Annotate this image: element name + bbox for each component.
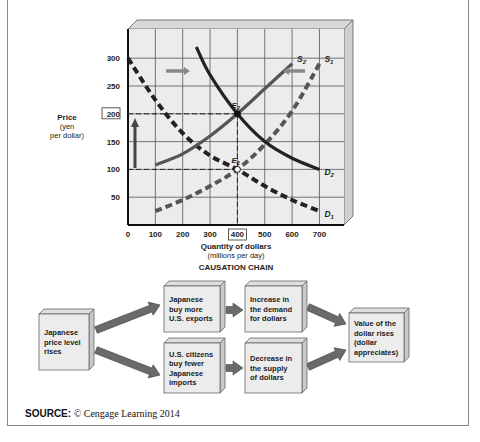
chart-box-side-face <box>344 20 353 225</box>
label-subscript: 2 <box>302 59 307 65</box>
box-text-line: Japanese <box>169 295 203 304</box>
x-tick-label: 700 <box>313 230 327 239</box>
box-side-face <box>404 308 409 362</box>
arrow-imports-to-supply <box>226 361 243 375</box>
flow-arrow-shape <box>93 298 162 336</box>
box-side-face <box>302 281 307 332</box>
causation-box-supply: Decrease inthe supplyof dollars <box>245 338 307 393</box>
source-line: SOURCE: © Cengage Learning 2014 <box>25 408 180 419</box>
equilibrium-point-e2 <box>234 111 240 117</box>
box-text-line: imports <box>169 378 197 387</box>
arrow-demand-to-result <box>305 301 349 331</box>
flow-arrow-shape <box>93 343 162 381</box>
x-tick-label: 0 <box>126 230 131 239</box>
box-text-line: dollar rises <box>354 329 394 338</box>
flow-arrow-shape <box>305 344 349 374</box>
x-axis-label: Quantity of dollars <box>201 242 272 251</box>
causation-chain-title: CAUSATION CHAIN <box>199 263 274 272</box>
causation-box-exports: Japanesebuy moreU.S. exports <box>164 281 225 332</box>
box-text-line: for dollars <box>250 314 287 323</box>
x-tick-label: 100 <box>149 230 163 239</box>
box-text-line: buy fewer <box>169 359 204 368</box>
box-top-face <box>164 338 225 343</box>
box-text-line: Value of the <box>354 319 396 328</box>
x-tick-label: 200 <box>176 230 190 239</box>
y-axis-label: Price <box>57 113 77 122</box>
y-tick-label: 50 <box>111 193 120 202</box>
equilibrium-point-e1 <box>234 166 240 172</box>
box-top-face <box>245 338 307 343</box>
y-axis-sublabel: (yen <box>60 122 75 131</box>
box-text-line: U.S. citizens <box>169 350 213 359</box>
y-tick-label: 150 <box>107 138 121 147</box>
causation-box-demand: Increase inthe demandfor dollars <box>245 281 307 332</box>
y-tick-label: 100 <box>107 165 121 174</box>
causation-box-result: Value of thedollar rises(dollarappreciat… <box>349 308 409 362</box>
exchange-rate-chart: 010020030040050060070050100150200250300Q… <box>0 0 480 442</box>
box-side-face <box>220 338 225 393</box>
chart-box-top-face <box>128 20 353 29</box>
box-side-face <box>89 309 94 370</box>
box-text-line: Increase in <box>250 295 290 304</box>
arrow-start-to-imports <box>93 343 162 381</box>
label-subscript: 2 <box>236 105 241 111</box>
x-tick-label: 300 <box>203 230 217 239</box>
box-text-line: Decrease in <box>250 354 293 363</box>
flow-arrow-shape <box>226 303 243 317</box>
source-label: SOURCE: <box>25 408 71 419</box>
y-tick-label: 250 <box>107 82 121 91</box>
label-subscript: 2 <box>330 172 335 178</box>
x-axis-sublabel: (millions per day) <box>207 251 265 260</box>
arrow-exports-to-demand <box>226 303 243 317</box>
box-top-face <box>349 308 409 313</box>
arrow-supply-to-result <box>305 344 349 374</box>
box-side-face <box>220 281 225 332</box>
source-text: © Cengage Learning 2014 <box>71 408 180 419</box>
x-tick-label: 500 <box>258 230 272 239</box>
flow-arrow-shape <box>226 361 243 375</box>
box-text-line: of dollars <box>250 373 284 382</box>
box-text-line: appreciates) <box>354 348 399 357</box>
box-text-line: the demand <box>250 305 293 314</box>
arrow-start-to-exports <box>93 298 162 336</box>
x-tick-label: 400 <box>231 230 245 239</box>
box-text-line: U.S. exports <box>169 314 213 323</box>
box-text-line: the supply <box>250 364 288 373</box>
box-side-face <box>302 338 307 393</box>
box-top-face <box>164 281 225 286</box>
box-top-face <box>39 309 94 314</box>
flow-arrow-shape <box>305 301 349 331</box>
box-text-line: Japanese <box>44 328 78 337</box>
causation-box-imports: U.S. citizensbuy fewerJapaneseimports <box>164 338 225 393</box>
y-tick-label: 200 <box>107 110 121 119</box>
box-text-line: (dollar <box>354 338 377 347</box>
causation-box-start: Japaneseprice levelrises <box>39 309 94 370</box>
box-text-line: buy more <box>169 305 203 314</box>
box-text-line: price level <box>44 338 81 347</box>
y-axis-sublabel: per dollar) <box>50 131 84 140</box>
box-text-line: Japanese <box>169 369 203 378</box>
box-text-line: rises <box>44 347 62 356</box>
x-tick-label: 600 <box>285 230 299 239</box>
y-tick-label: 300 <box>107 54 121 63</box>
box-top-face <box>245 281 307 286</box>
